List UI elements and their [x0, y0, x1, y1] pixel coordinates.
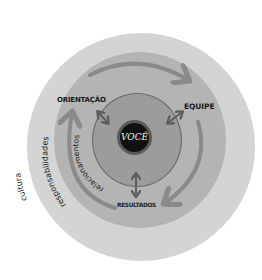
- arrows-layer: cultura responsabilidades relacionamento…: [0, 0, 262, 280]
- node-equipe: EQUIPE: [184, 103, 214, 111]
- concentric-diagram: VOCÊ: [0, 0, 262, 280]
- node-resultados: RESULTADOS: [117, 203, 156, 209]
- link-voce-equipe: [168, 112, 182, 123]
- cultura-ring-label: cultura: [13, 172, 29, 202]
- cycle-arrow-equipe-to-resultados: [165, 122, 201, 203]
- link-voce-orientacao: [98, 112, 108, 123]
- cycle-arrow-orientacao-to-equipe: [90, 64, 188, 80]
- responsabilidades-ring-label: responsabilidades: [40, 136, 67, 209]
- relacionamentos-ring-label: relacionamentos: [71, 134, 105, 194]
- node-orientacao: ORIENTAÇÃO: [57, 97, 106, 104]
